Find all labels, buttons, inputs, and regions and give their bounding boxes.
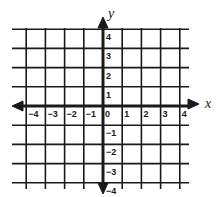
x-tick-label: 3 (163, 109, 168, 119)
x-tick-label: 0 (105, 109, 110, 119)
y-tick-label: −4 (106, 186, 116, 196)
y-tick-label: 2 (106, 71, 111, 81)
x-axis-right-arrow-icon (188, 99, 199, 109)
x-tick-label: −3 (47, 109, 57, 119)
y-tick-label: 1 (106, 90, 111, 100)
x-tick-label: 4 (182, 109, 187, 119)
x-axis-label: x (204, 96, 212, 111)
x-tick-label: −1 (86, 109, 96, 119)
x-tick-label: −2 (67, 109, 77, 119)
y-axis-label: y (106, 6, 115, 21)
coordinate-plane: −4−3−2−101234 4321−1−2−3−4 x y (0, 0, 223, 197)
y-tick-label: 3 (106, 51, 111, 61)
x-tick-label: 1 (124, 109, 129, 119)
x-tick-labels: −4−3−2−101234 (28, 109, 187, 119)
y-axis-up-arrow-icon (98, 17, 108, 28)
x-axis-left-arrow-icon (12, 101, 23, 111)
y-tick-label: 4 (106, 32, 111, 42)
y-tick-label: −1 (106, 128, 116, 138)
y-tick-label: −3 (106, 167, 116, 177)
y-tick-label: −2 (106, 147, 116, 157)
x-tick-label: 2 (143, 109, 148, 119)
x-tick-label: −4 (28, 109, 38, 119)
